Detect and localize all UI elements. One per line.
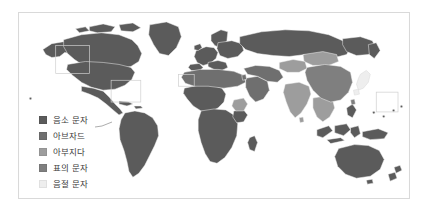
region-sri-lanka: [299, 117, 304, 123]
region-mongolia: [303, 52, 339, 66]
region-taiwan: [351, 99, 356, 105]
legend-swatch-abjad: [39, 132, 47, 140]
figure-frame: 음소 문자 아브자드 아부지다 표의 문자 음절 문자: [18, 12, 410, 199]
legend-swatch-alphabet: [39, 116, 47, 124]
legend-item-alphabet[interactable]: 음소 문자: [39, 112, 131, 128]
legend-item-logographic[interactable]: 표의 문자: [39, 160, 131, 176]
legend-item-abjad[interactable]: 아브자드: [39, 128, 131, 144]
legend-item-syllabary[interactable]: 음절 문자: [39, 176, 131, 192]
region-central-asia: [279, 59, 307, 72]
region-japan-south: [353, 89, 359, 95]
region-tasmania: [366, 179, 373, 184]
legend-swatch-abugida: [39, 148, 47, 156]
legend-label-alphabet: 음소 문자: [53, 115, 88, 125]
legend-label-syllabary: 음절 문자: [53, 179, 88, 189]
legend-label-abugida: 아부지다: [53, 147, 85, 157]
legend-label-abjad: 아브자드: [53, 131, 85, 141]
legend-swatch-syllabary: [39, 180, 47, 188]
legend-label-logographic: 표의 문자: [53, 163, 88, 173]
legend-swatch-logographic: [39, 164, 47, 172]
region-israel: [242, 74, 247, 80]
screenshot-root: 음소 문자 아브자드 아부지다 표의 문자 음절 문자: [0, 0, 427, 218]
region-north-africa: [181, 69, 245, 88]
writing-systems-legend: 음소 문자 아브자드 아부지다 표의 문자 음절 문자: [39, 112, 131, 192]
legend-item-abugida[interactable]: 아부지다: [39, 144, 131, 160]
